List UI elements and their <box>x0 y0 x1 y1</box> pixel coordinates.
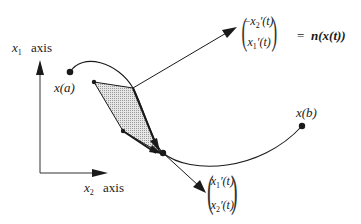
x2-axis <box>40 169 108 177</box>
normal-vector-name: n(x(t)) <box>311 29 346 42</box>
left-paren: ( <box>241 12 247 56</box>
x2-axis-label: x2 axis <box>84 181 124 197</box>
normal-arrowhead-icon <box>222 27 237 38</box>
deriv: ′(t) <box>257 35 271 49</box>
axis-word: axis <box>103 180 124 195</box>
start-point-dot <box>67 69 74 76</box>
right-paren: ) <box>271 12 277 56</box>
x2-axis-arrow-icon <box>92 169 108 177</box>
vertex-dot <box>92 80 96 84</box>
end-point-label: x(b) <box>296 106 317 119</box>
x1-axis-label: x1 axis <box>12 41 52 57</box>
end-point-dot <box>299 123 305 129</box>
axis-sub: 1 <box>18 48 22 57</box>
normal-equals: = <box>297 29 304 42</box>
normal-vector-matrix: ( −x2′(t) x1′(t) ) <box>238 12 280 56</box>
shaded-parallelogram <box>94 82 160 153</box>
curve-path <box>70 61 302 166</box>
x1-axis <box>36 60 44 173</box>
right-paren: ) <box>231 170 238 220</box>
axis-sub: 2 <box>90 188 94 197</box>
axis-word: axis <box>31 40 52 55</box>
matrix-cell-top: −x2′(t) <box>245 13 274 34</box>
left-paren: ( <box>207 170 214 220</box>
normal-vector-arrow <box>133 27 237 88</box>
matrix-cell-bottom: x1′(t) <box>247 34 270 55</box>
vertex-dot <box>121 129 125 133</box>
start-point-label: x(a) <box>54 81 75 94</box>
matrix-column: −x2′(t) x1′(t) <box>245 12 274 56</box>
x1-axis-arrow-icon <box>36 60 44 75</box>
tangent-vector-matrix: ( x1′(t) x2′(t) ) <box>203 170 242 220</box>
tangent-vector-arrow <box>163 153 206 193</box>
